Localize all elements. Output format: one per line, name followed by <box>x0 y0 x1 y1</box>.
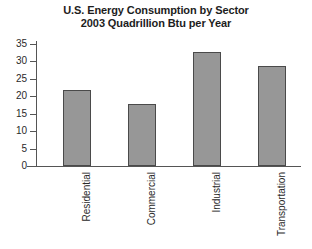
y-axis-tick-label: 30 <box>0 56 27 66</box>
y-tick-mark-1 <box>30 149 37 150</box>
x-axis-label-transportation: Transportation <box>277 172 287 236</box>
y-tick-mark-0 <box>30 166 37 167</box>
y-axis-tick-label: 15 <box>0 109 27 119</box>
x-axis-label-industrial: Industrial <box>212 172 222 213</box>
y-axis-tick-label: 5 <box>0 144 27 154</box>
plot-area: 0 5 10 15 20 25 30 35 Residential Commer… <box>0 0 312 249</box>
bar-commercial <box>128 104 156 166</box>
y-tick-mark-4 <box>30 96 37 97</box>
x-axis-label-residential: Residential <box>82 172 92 221</box>
y-tick-mark-3 <box>30 114 37 115</box>
y-tick-mark-5 <box>30 79 37 80</box>
y-axis-tick-label: 0 <box>0 161 27 171</box>
energy-consumption-bar-chart: U.S. Energy Consumption by Sector 2003 Q… <box>0 0 312 249</box>
y-axis-tick-label: 10 <box>0 126 27 136</box>
y-tick-mark-7 <box>30 44 37 45</box>
bar-residential <box>63 90 91 166</box>
y-axis-tick-label: 20 <box>0 91 27 101</box>
bar-transportation <box>258 66 286 166</box>
x-axis-line <box>27 166 301 167</box>
y-tick-mark-6 <box>30 61 37 62</box>
y-tick-mark-2 <box>30 131 37 132</box>
x-axis-label-commercial: Commercial <box>147 172 157 225</box>
y-axis-tick-label: 35 <box>0 39 27 49</box>
y-axis-tick-label: 25 <box>0 74 27 84</box>
bar-industrial <box>193 52 221 166</box>
